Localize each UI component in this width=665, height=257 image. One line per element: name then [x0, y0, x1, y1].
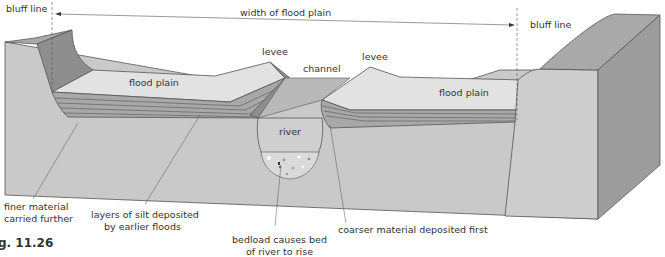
arrowhead-left: [55, 12, 61, 16]
label-width-of-flood-plain: width of flood plain: [240, 7, 331, 18]
label-flood-plain-right: flood plain: [439, 87, 489, 98]
label-silt-layers-1: layers of silt deposited: [91, 209, 199, 220]
label-finer-material-1: finer material: [4, 201, 68, 212]
label-bluff-line-right: bluff line: [530, 19, 572, 30]
label-bluff-line-left: bluff line: [6, 3, 48, 14]
label-finer-material-2: carried further: [4, 213, 73, 224]
arrowhead-right: [509, 23, 515, 27]
right-bluff: [505, 69, 598, 219]
label-levee-right: levee: [362, 51, 388, 62]
label-bedload-2: of river to rise: [246, 246, 313, 257]
label-silt-layers-2: by earlier floods: [104, 221, 181, 232]
flood-plain-diagram: bluff line bluff line width of flood pla…: [0, 0, 665, 257]
label-coarser-material: coarser material deposited first: [338, 224, 488, 235]
label-channel: channel: [303, 63, 341, 74]
label-river: river: [279, 126, 301, 137]
label-levee-left: levee: [262, 46, 288, 57]
label-bedload-1: bedload causes bed: [232, 234, 327, 245]
figure-caption: g. 11.26: [0, 236, 53, 250]
label-flood-plain-left: flood plain: [129, 77, 179, 88]
